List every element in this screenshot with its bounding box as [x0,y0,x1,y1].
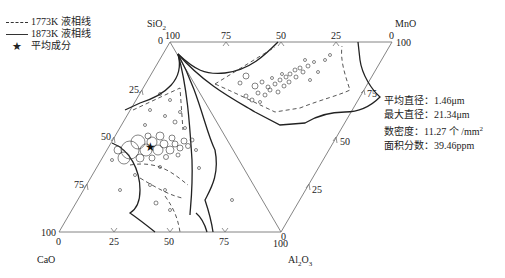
vertex-label-cao: CaO [37,254,55,265]
average-composition-star: ★ [145,140,156,154]
legend-label: 1873K 液相线 [31,28,91,40]
tick-marks [84,42,365,232]
tick-label: 25 [312,184,322,195]
tick-label: 50 [164,236,174,247]
vertex-label-mno: MnO [395,18,416,29]
star-icon: ★ [6,40,28,52]
tick-label: 25 [109,236,119,247]
tick-label: 50 [340,136,350,147]
dashed-line-icon [6,22,28,23]
tick-label: 75 [367,88,377,99]
stat-max-diameter: 最大直径：21.34μm [384,108,483,122]
tick-label: 100 [41,227,56,238]
legend-item-average: ★ 平均成分 [6,40,91,52]
tick-label: 0 [281,231,286,242]
tick-label: 25 [331,30,341,41]
legend-label: 平均成分 [31,40,71,52]
tick-label: 50 [101,131,111,142]
tick-label: 0 [158,35,163,46]
tick-label: 75 [219,236,229,247]
legend-item-1873k: 1873K 液相线 [6,28,91,40]
legend-label: 1773K 液相线 [31,16,91,28]
tick-label: 50 [276,30,286,41]
legend: 1773K 液相线 1873K 液相线 ★ 平均成分 [6,16,91,52]
solid-line-icon [6,34,28,35]
tick-label: 0 [56,236,61,247]
vertex-label-al2o3: Al2O3 [288,254,312,270]
stat-avg-diameter: 平均直径：1.46μm [384,94,483,108]
legend-item-1773k: 1773K 液相线 [6,16,91,28]
tick-label: 0 [389,30,394,41]
tick-label: 75 [221,30,231,41]
tick-label: 100 [396,37,411,48]
stat-area-fraction: 面积分数：39.46ppm [384,139,483,153]
statistics-panel: 平均直径：1.46μm 最大直径：21.34μm 数密度：11.27 个 /mm… [384,94,483,153]
tick-label: 75 [74,179,84,190]
tick-label: 25 [129,84,139,95]
stat-number-density: 数密度：11.27 个 /mm2 [384,122,483,139]
vertex-label-sio2: SiO2 [147,18,166,34]
tick-label: 100 [165,30,180,41]
